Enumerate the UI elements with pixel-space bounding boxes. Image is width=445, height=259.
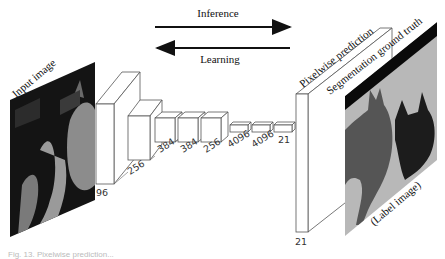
learning-label: Learning bbox=[200, 53, 240, 65]
input-image bbox=[0, 55, 100, 245]
layer-label-21: 21 bbox=[278, 134, 290, 145]
figure-caption: Fig. 13. Pixelwise prediction... bbox=[8, 250, 114, 259]
inference-label: Inference bbox=[197, 7, 239, 19]
layer-label-96: 96 bbox=[96, 187, 108, 198]
output-layer-label-21: 21 bbox=[295, 236, 307, 247]
layer-block-21 bbox=[274, 122, 295, 132]
